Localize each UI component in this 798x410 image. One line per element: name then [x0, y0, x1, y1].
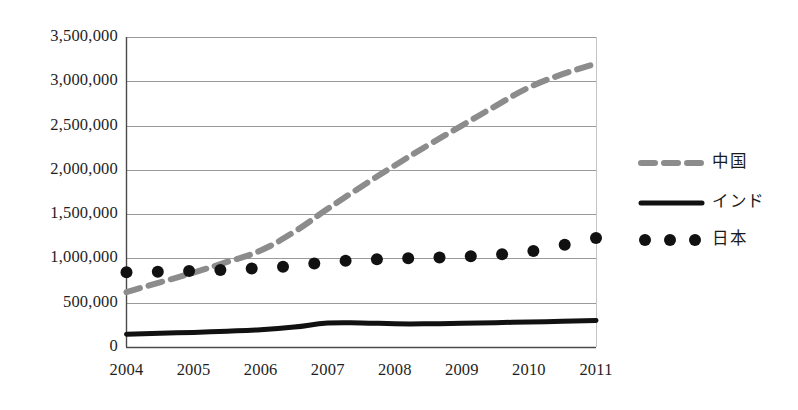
data-point-japan [121, 266, 133, 278]
axis-lines [126, 37, 596, 348]
data-series-layer [121, 64, 603, 335]
data-point-japan [402, 252, 414, 264]
series-china [127, 64, 597, 293]
legend-label-japan: 日本 [712, 231, 747, 248]
data-point-japan [527, 245, 539, 257]
x-axis-tick-label: 2011 [556, 362, 636, 379]
legend-marker-japan [689, 234, 701, 246]
data-point-japan [590, 232, 602, 244]
chart-container: 3,500,0003,000,0002,500,0002,000,0001,50… [0, 0, 798, 410]
legend-markers [639, 163, 702, 246]
data-point-japan [496, 248, 508, 260]
data-point-japan [340, 255, 352, 267]
series-japan [121, 232, 603, 278]
data-point-japan [308, 258, 320, 270]
data-point-japan [277, 261, 289, 273]
legend-label-india: インド [712, 194, 765, 211]
plot-area [0, 0, 798, 410]
data-point-japan [152, 266, 164, 278]
gridlines [127, 37, 597, 348]
data-point-japan [246, 263, 258, 275]
data-point-japan [371, 253, 383, 265]
legend-marker-japan [664, 234, 676, 246]
legend-marker-japan [639, 234, 651, 246]
legend-label-china: 中国 [712, 154, 747, 171]
data-point-japan [434, 252, 446, 264]
data-point-japan [559, 239, 571, 251]
data-point-japan [183, 265, 195, 277]
data-point-japan [465, 250, 477, 262]
data-point-japan [214, 264, 226, 276]
series-india [127, 320, 597, 334]
